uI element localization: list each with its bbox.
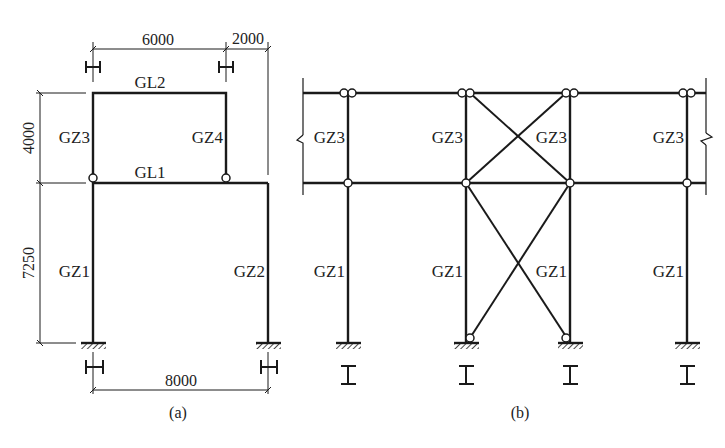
label-gz3: GZ3	[59, 128, 90, 147]
label-gl2: GL2	[134, 73, 165, 92]
hinge-icon	[466, 334, 474, 342]
dimension-top: 6000 2000	[90, 30, 271, 175]
diagram-a: 6000 2000 4000 7250	[20, 30, 281, 422]
label-gl1: GL1	[134, 163, 165, 182]
diagram-b: GZ3 GZ3 GZ3 GZ3 GZ1 GZ1 GZ1 GZ1 (b)	[297, 78, 712, 422]
fixed-support-icon	[81, 343, 106, 349]
h-section-icon	[261, 360, 277, 374]
label-gz3: GZ3	[653, 128, 684, 147]
break-line-left	[297, 78, 303, 195]
hinge-icon	[562, 334, 570, 342]
caption-b: (b)	[511, 404, 530, 422]
hinge-icon	[566, 179, 574, 187]
h-section-icon	[86, 360, 103, 374]
hinge-icon	[344, 179, 352, 187]
fixed-support-icon	[256, 343, 281, 349]
label-gz1: GZ1	[59, 262, 90, 281]
hinge-icon	[462, 179, 470, 187]
i-section-icon	[680, 366, 695, 384]
label-gz1: GZ1	[432, 262, 463, 281]
fixed-support-icon	[336, 343, 361, 349]
dim-4000: 4000	[20, 122, 37, 154]
fixed-support-icon	[558, 343, 583, 349]
lower-x-bracing	[466, 183, 570, 338]
label-gz1: GZ1	[536, 262, 567, 281]
i-section-icon	[459, 366, 474, 384]
dim-8000: 8000	[165, 372, 197, 389]
label-gz1: GZ1	[314, 262, 345, 281]
dim-7250: 7250	[20, 247, 37, 279]
hinge-icon	[89, 174, 97, 182]
structural-diagram: 6000 2000 4000 7250	[0, 0, 725, 448]
i-section-icon	[563, 366, 578, 384]
label-gz2: GZ2	[234, 262, 265, 281]
hinge-icon	[683, 179, 691, 187]
label-gz3: GZ3	[536, 128, 567, 147]
dim-6000: 6000	[142, 31, 174, 48]
dim-2000: 2000	[232, 30, 264, 47]
label-gz3: GZ3	[314, 128, 345, 147]
fixed-support-icon	[454, 343, 479, 349]
dimension-bottom: 8000	[90, 352, 271, 394]
hinge-icon	[222, 174, 230, 182]
label-gz1: GZ1	[653, 262, 684, 281]
label-gz3: GZ3	[432, 128, 463, 147]
label-gz4: GZ4	[192, 128, 224, 147]
i-section-icon	[341, 366, 356, 384]
fixed-support-icon	[675, 343, 700, 349]
break-line-right	[701, 78, 712, 195]
caption-a: (a)	[169, 404, 187, 422]
